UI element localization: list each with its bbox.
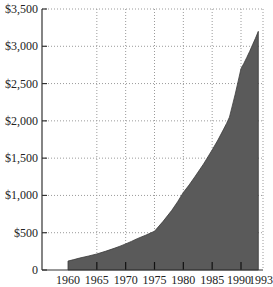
x-tick-label: 1993 (249, 273, 273, 287)
y-tick-label: 0 (32, 263, 38, 277)
y-tick-label: $2,500 (5, 77, 38, 91)
y-tick-label: $1,500 (5, 151, 38, 165)
x-axis-labels: 19601965197019751980198519901993 (56, 273, 273, 287)
y-tick-label: $2,000 (5, 114, 38, 128)
x-tick-label: 1965 (85, 273, 109, 287)
y-axis-labels: 0$500$1,000$1,500$2,000$2,500$3,000$3,50… (5, 2, 38, 277)
x-tick-label: 1990 (227, 273, 251, 287)
y-tick-label: $500 (14, 226, 38, 240)
x-tick-label: 1960 (56, 273, 80, 287)
y-tick-label: $3,000 (5, 39, 38, 53)
x-tick-label: 1980 (171, 273, 195, 287)
x-tick-label: 1985 (200, 273, 224, 287)
y-tick-label: $3,500 (5, 2, 38, 16)
y-tick-label: $1,000 (5, 188, 38, 202)
x-tick-label: 1970 (114, 273, 138, 287)
x-tick-label: 1975 (143, 273, 167, 287)
area-chart: 0$500$1,000$1,500$2,000$2,500$3,000$3,50… (0, 0, 273, 287)
